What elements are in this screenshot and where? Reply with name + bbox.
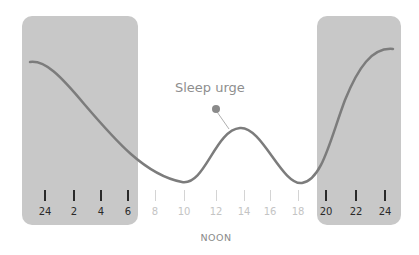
sleep-urge-label: Sleep urge xyxy=(175,80,245,95)
tick-mark xyxy=(73,190,75,201)
tick-label: 18 xyxy=(292,206,305,217)
tick-mark xyxy=(184,190,185,201)
tick-mark xyxy=(355,190,357,201)
tick-label: 6 xyxy=(125,206,131,217)
tick-mark xyxy=(298,190,299,201)
tick-mark xyxy=(244,190,245,201)
tick-mark xyxy=(155,190,156,201)
tick-label: 2 xyxy=(71,206,77,217)
tick-mark xyxy=(216,190,217,201)
tick-label: 8 xyxy=(152,206,158,217)
tick-mark xyxy=(384,190,386,201)
annotation-marker xyxy=(212,105,220,113)
sleep-urge-curve xyxy=(30,49,393,183)
noon-label: NOON xyxy=(200,232,231,243)
tick-label: 4 xyxy=(98,206,104,217)
tick-label: 20 xyxy=(320,206,333,217)
tick-mark xyxy=(44,190,46,201)
tick-label: 24 xyxy=(379,206,392,217)
tick-label: 24 xyxy=(39,206,52,217)
tick-mark xyxy=(325,190,327,201)
tick-label: 12 xyxy=(210,206,223,217)
tick-mark xyxy=(100,190,102,201)
tick-mark xyxy=(270,190,271,201)
tick-label: 10 xyxy=(178,206,191,217)
tick-mark xyxy=(127,190,129,201)
tick-label: 16 xyxy=(264,206,277,217)
tick-label: 22 xyxy=(350,206,363,217)
tick-label: 14 xyxy=(238,206,251,217)
